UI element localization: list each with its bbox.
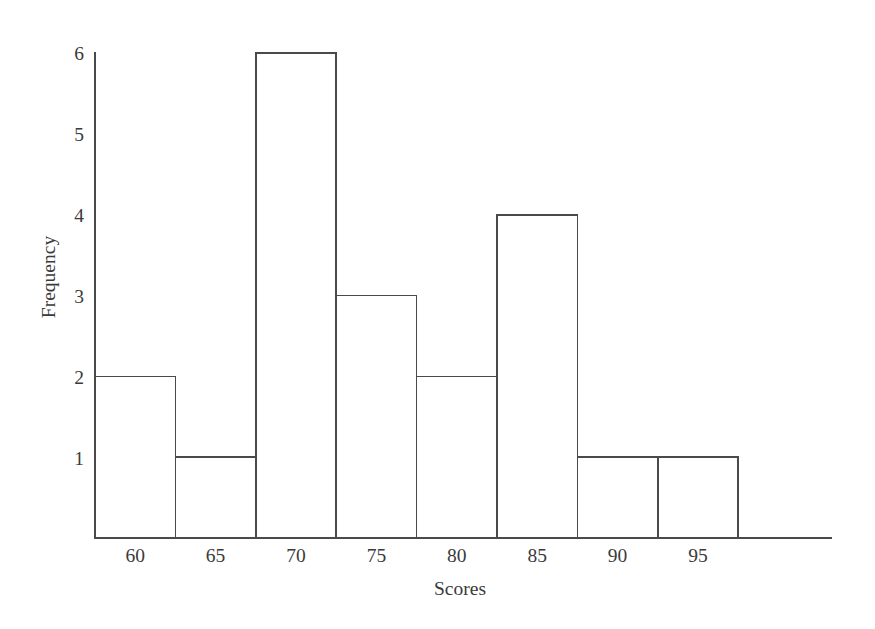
- histogram-bar[interactable]: [658, 457, 738, 538]
- x-axis-title: Scores: [434, 578, 486, 599]
- x-tick-label: 70: [286, 545, 306, 566]
- y-axis-title: Frequency: [38, 236, 59, 319]
- x-tick-label: 65: [206, 545, 226, 566]
- histogram-figure: 6 5 4 3 2 1 60 65 70 75 80 85 90 95 Scor…: [0, 0, 875, 629]
- y-tick-labels: 6 5 4 3 2 1: [74, 43, 84, 469]
- x-tick-label: 90: [608, 545, 628, 566]
- histogram-bar[interactable]: [175, 457, 255, 538]
- x-tick-label: 95: [688, 545, 708, 566]
- bars-group: [95, 53, 738, 538]
- histogram-bar[interactable]: [497, 215, 577, 538]
- histogram-plot: 6 5 4 3 2 1 60 65 70 75 80 85 90 95 Scor…: [0, 0, 875, 629]
- y-tick-label: 3: [74, 286, 84, 307]
- histogram-bar[interactable]: [95, 376, 175, 538]
- histogram-bar[interactable]: [336, 296, 416, 538]
- x-tick-label: 85: [527, 545, 547, 566]
- x-tick-label: 60: [125, 545, 145, 566]
- histogram-bar[interactable]: [577, 457, 657, 538]
- y-tick-label: 1: [74, 448, 84, 469]
- histogram-bar[interactable]: [256, 53, 336, 538]
- histogram-bar[interactable]: [417, 376, 497, 538]
- y-tick-label: 4: [74, 205, 84, 226]
- y-tick-label: 2: [74, 367, 84, 388]
- x-tick-label: 80: [447, 545, 467, 566]
- x-tick-label: 75: [367, 545, 387, 566]
- y-tick-label: 5: [74, 124, 84, 145]
- y-tick-label: 6: [74, 43, 84, 64]
- x-tick-labels: 60 65 70 75 80 85 90 95: [125, 545, 707, 566]
